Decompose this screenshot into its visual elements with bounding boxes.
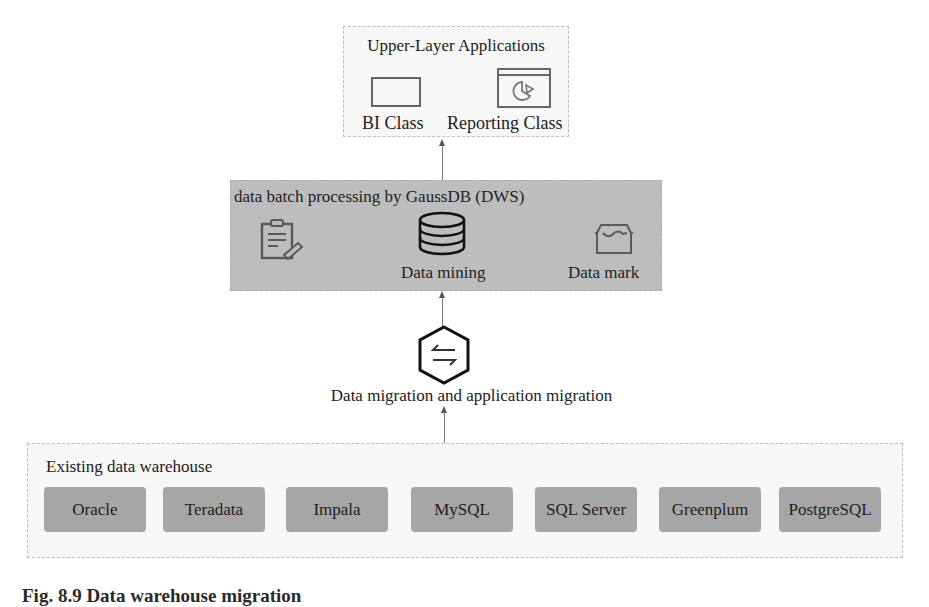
arrow-up-line [444,412,446,443]
upper-layer-applications-box: Upper-Layer Applications BI Class Report… [343,26,569,137]
source-chip-mysql: MySQL [411,487,513,532]
window-icon [371,77,421,107]
warehouse-title: Existing data warehouse [46,457,212,477]
source-chip-oracle: Oracle [44,487,146,532]
data-mart-icon [591,221,637,259]
source-chip-greenplum: Greenplum [659,487,761,532]
reporting-class-label: Reporting Class [447,113,563,134]
processing-title: data batch processing by GaussDB (DWS) [234,187,524,207]
gaussdb-processing-box: data batch processing by GaussDB (DWS) D… [230,180,662,291]
data-mark-label: Data mark [568,263,639,283]
figure-caption: Fig. 8.9 Data warehouse migration [22,585,301,607]
source-chip-postgresql: PostgreSQL [779,487,881,532]
source-chip-sql-server: SQL Server [535,487,637,532]
existing-data-warehouse-box: Existing data warehouse Oracle Teradata … [27,443,903,558]
data-mining-label: Data mining [401,263,486,283]
migration-label: Data migration and application migration [0,386,929,406]
source-chip-impala: Impala [286,487,388,532]
upper-layer-title: Upper-Layer Applications [344,36,568,56]
database-icon [417,211,467,261]
pie-chart-report-icon [497,68,551,112]
exchange-arrows-icon [417,325,471,389]
arrow-up-line [442,145,444,180]
clipboard-edit-icon [260,219,308,265]
arrow-up-line [442,297,444,327]
source-chip-teradata: Teradata [163,487,265,532]
bi-class-label: BI Class [362,113,424,134]
